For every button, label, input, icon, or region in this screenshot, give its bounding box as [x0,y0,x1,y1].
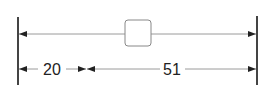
arrow-left-icon [87,66,95,72]
arrow-left-icon [19,66,27,72]
dimension-diagram: 20 51 [0,0,274,96]
arrow-right-icon [78,66,86,72]
arrow-right-icon [248,31,256,37]
arrow-right-icon [248,66,256,72]
dimension-label-20: 20 [43,61,61,78]
dimension-label-51: 51 [163,61,181,78]
center-box [125,20,151,46]
arrow-left-icon [19,31,27,37]
